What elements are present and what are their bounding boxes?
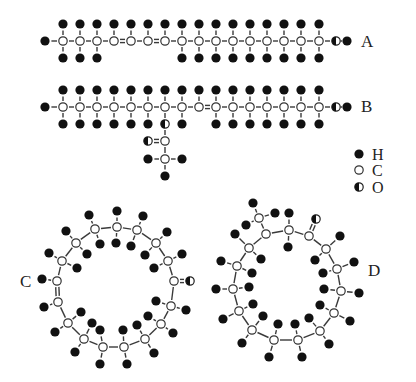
carbon-atom bbox=[133, 226, 141, 234]
single-bond bbox=[177, 308, 180, 309]
single-bond bbox=[164, 311, 168, 319]
single-bond bbox=[256, 321, 259, 325]
hydrogen-atom bbox=[283, 242, 292, 251]
hydrogen-atom bbox=[151, 296, 160, 305]
hydrogen-atom bbox=[241, 220, 250, 229]
hydrogen-atom bbox=[92, 85, 101, 94]
single-bond bbox=[72, 327, 80, 335]
carbon-atom bbox=[178, 103, 186, 111]
single-bond bbox=[170, 267, 173, 276]
molecular-structures-diagram: H C O A B C D bbox=[0, 0, 416, 382]
single-bond bbox=[313, 323, 316, 327]
molecule-c bbox=[37, 206, 194, 368]
hydrogen-atom bbox=[177, 85, 186, 94]
carbon-atom bbox=[330, 309, 338, 317]
carbon-atom bbox=[157, 320, 165, 328]
carbon-atom bbox=[64, 319, 72, 327]
hydrogen-atom bbox=[72, 263, 81, 272]
hydrogen-atom bbox=[143, 19, 152, 28]
carbon-atom bbox=[235, 307, 243, 315]
oxygen-atom bbox=[186, 277, 194, 285]
hydrogen-atom bbox=[50, 327, 59, 336]
single-bond bbox=[166, 328, 168, 330]
hydrogen-atom bbox=[92, 119, 101, 128]
hydrogen-atom bbox=[75, 119, 84, 128]
hydrogen-atom bbox=[290, 319, 299, 328]
single-bond bbox=[159, 248, 164, 256]
single-bond bbox=[242, 269, 246, 271]
hydrogen-atom bbox=[256, 254, 265, 263]
single-bond bbox=[323, 336, 325, 339]
oxygen-atom bbox=[332, 37, 340, 45]
hydrogen-atom bbox=[168, 328, 177, 337]
single-bond bbox=[296, 330, 297, 334]
single-bond bbox=[329, 271, 331, 272]
carbon-atom bbox=[297, 103, 305, 111]
single-bond bbox=[92, 221, 93, 224]
carbon-atom bbox=[195, 37, 203, 45]
hydrogen-atom bbox=[245, 119, 254, 128]
hydrogen-atom bbox=[270, 208, 279, 217]
hydrogen-atom bbox=[126, 85, 135, 94]
carbon-atom bbox=[316, 327, 324, 335]
hydrogen-atom bbox=[140, 250, 149, 259]
hydrogen-atom bbox=[37, 274, 46, 283]
hydrogen-atom bbox=[211, 19, 220, 28]
hydrogen-atom bbox=[149, 348, 158, 357]
hydrogen-atom bbox=[354, 288, 363, 297]
legend: H C O bbox=[354, 146, 384, 196]
single-bond bbox=[347, 292, 353, 293]
hydrogen-atom bbox=[126, 119, 135, 128]
carbon-atom bbox=[110, 37, 118, 45]
hydrogen-atom bbox=[324, 339, 333, 348]
hydrogen-atom bbox=[160, 85, 169, 94]
single-bond bbox=[246, 335, 248, 338]
double-bond bbox=[310, 224, 312, 230]
carbon-atom bbox=[178, 37, 186, 45]
carbon-atom bbox=[93, 103, 101, 111]
carbon-atom-icon bbox=[355, 166, 363, 174]
hydrogen-atom bbox=[345, 316, 354, 325]
hydrogen-atom bbox=[297, 352, 306, 361]
single-bond bbox=[299, 346, 300, 351]
single-bond bbox=[295, 232, 304, 235]
carbon-atom bbox=[315, 103, 323, 111]
carbon-atom bbox=[333, 265, 341, 273]
hydrogen-atom bbox=[264, 352, 273, 361]
hydrogen-atom bbox=[143, 154, 152, 163]
hydrogen-atom bbox=[143, 311, 152, 320]
hydrogen-atom bbox=[70, 347, 79, 356]
single-bond bbox=[239, 288, 243, 289]
hydrogen-atom bbox=[304, 313, 313, 322]
single-bond bbox=[81, 233, 90, 240]
carbon-atom bbox=[337, 287, 345, 295]
hydrogen-atom bbox=[92, 53, 101, 62]
hydrogen-atom bbox=[118, 325, 127, 334]
carbon-atom bbox=[110, 103, 118, 111]
single-bond bbox=[258, 333, 269, 338]
carbon-atom bbox=[76, 103, 84, 111]
carbon-atom bbox=[58, 257, 66, 265]
hydrogen-atom bbox=[245, 53, 254, 62]
single-bond bbox=[229, 314, 234, 316]
carbon-atom bbox=[59, 37, 67, 45]
single-bond bbox=[304, 333, 315, 337]
hydrogen-atom bbox=[162, 227, 171, 236]
hydrogen-atom bbox=[296, 85, 305, 94]
single-bond bbox=[338, 275, 340, 285]
carbon-atom bbox=[255, 214, 263, 222]
carbon-atom bbox=[280, 103, 288, 111]
hydrogen-atom bbox=[82, 249, 91, 258]
carbon-atom bbox=[161, 155, 169, 163]
single-bond bbox=[80, 247, 82, 249]
carbon-atom bbox=[93, 37, 101, 45]
hydrogen-atom bbox=[211, 284, 220, 293]
hydrogen-atom bbox=[248, 299, 257, 308]
single-bond bbox=[271, 346, 273, 351]
single-bond bbox=[240, 239, 245, 244]
hydrogen-atom bbox=[314, 85, 323, 94]
carbon-atom bbox=[164, 257, 172, 265]
hydrogen-atom bbox=[138, 211, 147, 220]
single-bond bbox=[66, 248, 73, 257]
single-bond bbox=[235, 295, 238, 305]
